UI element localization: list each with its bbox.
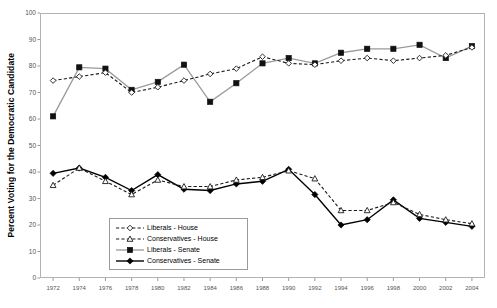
y-tick-label: 10	[29, 248, 37, 255]
x-tick-label: 1986	[230, 285, 244, 291]
legend-item-conservatives-house[interactable]: Conservatives - House	[115, 233, 242, 244]
legend-swatch	[115, 245, 145, 255]
x-tick-label: 1984	[203, 285, 217, 291]
x-tick-label: 1976	[99, 285, 113, 291]
x-tick-label: 1990	[282, 285, 296, 291]
legend-swatch	[115, 223, 145, 233]
chart-container: Percent Voting for the Democratic Candid…	[0, 0, 497, 308]
legend-label: Liberals - House	[145, 224, 198, 231]
y-tick-label: 50	[29, 142, 37, 149]
chart-legend: Liberals - HouseConservatives - HouseLib…	[109, 218, 248, 270]
legend-swatch	[115, 234, 145, 244]
legend-marker	[127, 247, 132, 252]
x-tick-label: 1994	[334, 285, 348, 291]
x-tick-label: 1996	[361, 285, 375, 291]
legend-label: Conservatives - Senate	[145, 257, 220, 264]
x-tick-label: 1974	[73, 285, 87, 291]
plot-frame	[41, 14, 485, 278]
x-tick-label: 1978	[125, 285, 139, 291]
legend-marker	[127, 225, 133, 231]
x-tick-label: 2004	[465, 285, 479, 291]
legend-label: Conservatives - House	[145, 235, 218, 242]
legend-item-conservatives-senate[interactable]: Conservatives - Senate	[115, 255, 242, 266]
y-tick-label: 100	[25, 9, 36, 16]
y-tick-label: 0	[32, 274, 36, 281]
x-tick-label: 1980	[151, 285, 165, 291]
y-tick-label: 80	[29, 62, 37, 69]
legend-label: Liberals - Senate	[145, 246, 200, 253]
x-tick-label: 2002	[439, 285, 453, 291]
x-tick-label: 1998	[387, 285, 401, 291]
legend-marker	[127, 257, 133, 263]
x-tick-label: 1988	[256, 285, 270, 291]
x-tick-label: 1992	[308, 285, 322, 291]
legend-item-liberals-house[interactable]: Liberals - House	[115, 222, 242, 233]
y-tick-label: 60	[29, 115, 37, 122]
y-tick-label: 70	[29, 89, 37, 96]
y-tick-label: 90	[29, 36, 37, 43]
x-tick-label: 1972	[46, 285, 60, 291]
axis-layer: 0102030405060708090100197219741976197819…	[0, 0, 497, 308]
x-tick-label: 1982	[177, 285, 191, 291]
y-tick-label: 40	[29, 168, 37, 175]
y-tick-label: 20	[29, 221, 37, 228]
legend-item-liberals-senate[interactable]: Liberals - Senate	[115, 244, 242, 255]
legend-swatch	[115, 256, 145, 266]
x-tick-label: 2000	[413, 285, 427, 291]
y-tick-label: 30	[29, 195, 37, 202]
